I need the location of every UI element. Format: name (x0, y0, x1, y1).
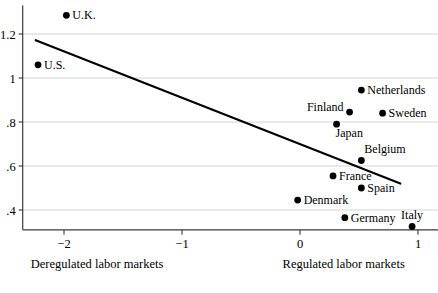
x-axis-title-right: Regulated labor markets (283, 257, 405, 271)
data-point-label-finland: Finland (307, 100, 344, 114)
y-tick-label-.8: .8 (6, 116, 15, 130)
data-point-label-germany: Germany (351, 211, 396, 225)
data-point-spain[interactable] (358, 185, 365, 192)
data-point-belgium[interactable] (358, 157, 365, 164)
data-point-netherlands[interactable] (358, 87, 365, 94)
x-tick-label-0: 0 (297, 237, 303, 251)
x-tick-label-−1: −1 (175, 237, 188, 251)
plot-canvas: .4.6.811.2−2−101U.K.U.S.NetherlandsFinla… (0, 0, 438, 293)
data-point-label-spain: Spain (367, 181, 394, 195)
data-point-uk[interactable] (63, 12, 70, 19)
data-point-france[interactable] (330, 173, 337, 180)
data-point-label-sweden: Sweden (389, 106, 427, 120)
data-point-italy[interactable] (409, 223, 416, 230)
data-point-label-japan: Japan (336, 126, 363, 140)
y-tick-label-.6: .6 (6, 160, 15, 174)
data-point-label-uk: U.K. (72, 8, 95, 22)
scatter-plot-figure: .4.6.811.2−2−101U.K.U.S.NetherlandsFinla… (0, 0, 438, 293)
y-tick-label-.4: .4 (6, 204, 16, 218)
data-point-finland[interactable] (346, 109, 353, 116)
data-point-label-netherlands: Netherlands (367, 83, 425, 97)
x-tick-label-1: 1 (415, 237, 421, 251)
data-point-denmark[interactable] (294, 197, 301, 204)
data-point-label-italy: Italy (401, 208, 423, 222)
data-point-label-us: U.S. (44, 58, 65, 72)
x-tick-label-−2: −2 (57, 237, 70, 251)
data-point-germany[interactable] (341, 214, 348, 221)
y-tick-label-1.2: 1.2 (0, 28, 16, 42)
data-point-sweden[interactable] (379, 110, 386, 117)
data-point-label-denmark: Denmark (304, 193, 349, 207)
data-point-us[interactable] (35, 61, 42, 68)
data-point-label-belgium: Belgium (364, 142, 406, 156)
regression-fit-line (36, 40, 401, 183)
x-axis-title-left: Deregulated labor markets (31, 257, 164, 271)
y-tick-label-1: 1 (9, 72, 15, 86)
